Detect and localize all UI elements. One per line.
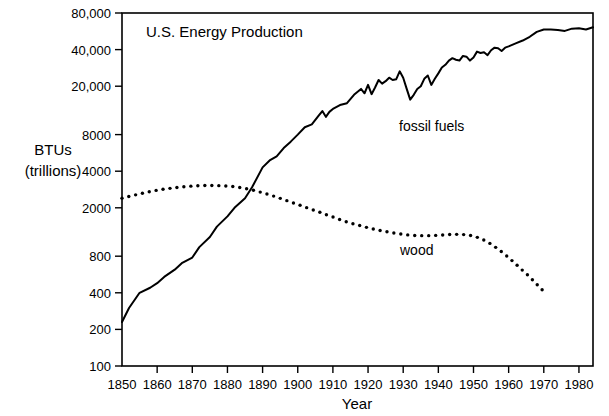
wood-dot [358, 224, 361, 227]
wood-dot [141, 192, 144, 195]
x-axis-ticks [157, 366, 579, 373]
wood-dot [210, 184, 213, 187]
x-axis-tick-labels: 1850186018701880189019001910192019301940… [108, 377, 594, 392]
wood-dot [279, 197, 282, 200]
wood-dot [259, 190, 262, 193]
wood-dot [272, 194, 275, 197]
wood-dot [189, 184, 192, 187]
x-tick-label-1930: 1930 [389, 377, 418, 392]
wood-dot [231, 185, 234, 188]
wood-dot [305, 206, 308, 209]
wood-dot [203, 184, 206, 187]
wood-dot [385, 230, 388, 233]
y-tick-label-80000: 80,000 [71, 6, 111, 21]
wood-dot [540, 288, 543, 291]
wood-dot [510, 259, 513, 262]
wood-dot [515, 264, 518, 267]
wood-dot [521, 268, 524, 271]
chart-figure: 10020040080020004000800020,00040,00080,0… [0, 0, 609, 416]
wood-dot [531, 278, 534, 281]
wood-dot [434, 234, 437, 237]
annotation-fossil-fuels: fossil fuels [399, 118, 464, 134]
x-tick-label-1850: 1850 [108, 377, 137, 392]
wood-dot [238, 186, 241, 189]
wood-dot [338, 218, 341, 221]
wood-dot [252, 189, 255, 192]
wood-dot [148, 190, 151, 193]
x-tick-label-1880: 1880 [213, 377, 242, 392]
y-tick-label-100: 100 [89, 359, 111, 374]
wood-dot [392, 231, 395, 234]
wood-dot [127, 195, 130, 198]
y-tick-label-20000: 20,000 [71, 79, 111, 94]
wood-dot [406, 233, 409, 236]
wood-dot [292, 201, 295, 204]
wood-dot [462, 233, 465, 236]
x-tick-label-1940: 1940 [424, 377, 453, 392]
y-tick-label-8000: 8000 [82, 128, 111, 143]
wood-dot [469, 234, 472, 237]
y-axis-ticks [115, 13, 122, 366]
y-tick-label-2000: 2000 [82, 201, 111, 216]
wood-dot [488, 242, 491, 245]
wood-dot [245, 187, 248, 190]
wood-dot [120, 196, 123, 199]
x-tick-label-1870: 1870 [178, 377, 207, 392]
wood-dot [526, 273, 529, 276]
plot-frame [122, 13, 593, 366]
wood-dot [448, 233, 451, 236]
x-tick-label-1920: 1920 [354, 377, 383, 392]
wood-dot [505, 254, 508, 257]
y-tick-label-800: 800 [89, 249, 111, 264]
wood-dot [365, 226, 368, 229]
annotation-wood: wood [399, 242, 433, 258]
wood-dot [312, 208, 315, 211]
wood-dot [325, 213, 328, 216]
wood-dot [285, 199, 288, 202]
wood-dot [476, 236, 479, 239]
y-tick-label-400: 400 [89, 286, 111, 301]
wood-dot [378, 229, 381, 232]
wood-dot [441, 233, 444, 236]
wood-dot [182, 185, 185, 188]
x-tick-label-1890: 1890 [248, 377, 277, 392]
energy-production-chart: 10020040080020004000800020,00040,00080,0… [0, 0, 609, 416]
y-tick-label-200: 200 [89, 322, 111, 337]
wood-dot [399, 232, 402, 235]
wood-dot [168, 187, 171, 190]
wood-dot [500, 250, 503, 253]
wood-dot [413, 234, 416, 237]
wood-dot [217, 184, 220, 187]
wood-dot [372, 227, 375, 230]
y-tick-label-4000: 4000 [82, 164, 111, 179]
wood-dot [161, 188, 164, 191]
series-wood-dotted [120, 184, 544, 292]
y-tick-label-40000: 40,000 [71, 43, 111, 58]
wood-dot [265, 192, 268, 195]
wood-dot [175, 186, 178, 189]
chart-title: U.S. Energy Production [146, 23, 303, 40]
wood-dot [536, 283, 539, 286]
x-tick-label-1910: 1910 [318, 377, 347, 392]
x-tick-label-1950: 1950 [459, 377, 488, 392]
wood-dot [331, 215, 334, 218]
wood-dot [154, 189, 157, 192]
wood-dot [318, 211, 321, 214]
x-tick-label-1980: 1980 [564, 377, 593, 392]
wood-dot [351, 222, 354, 225]
y-axis-tick-labels: 10020040080020004000800020,00040,00080,0… [71, 6, 111, 374]
x-tick-label-1860: 1860 [143, 377, 172, 392]
wood-dot [420, 234, 423, 237]
wood-dot [196, 184, 199, 187]
x-tick-label-1970: 1970 [529, 377, 558, 392]
x-tick-label-1960: 1960 [494, 377, 523, 392]
wood-dot [134, 193, 137, 196]
wood-dot [482, 238, 485, 241]
wood-dot [298, 204, 301, 207]
wood-dot [427, 234, 430, 237]
wood-dot [455, 233, 458, 236]
x-axis-label: Year [342, 395, 372, 412]
series-fossil-fuels-line [122, 27, 593, 322]
wood-dot [345, 220, 348, 223]
y-axis-label-line1: BTUs [34, 141, 72, 158]
